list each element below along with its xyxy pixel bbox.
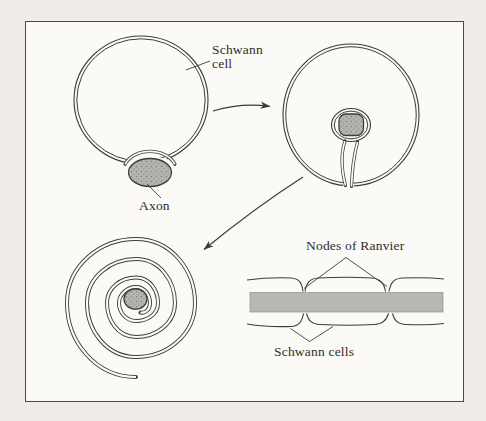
- stage4-myelinated-axon-longitudinal: [247, 258, 444, 342]
- schwann-segment-top-left: [247, 278, 303, 292]
- schwann-cell-label: Schwann cell: [212, 43, 276, 71]
- nodes-pointer-left: [304, 258, 346, 289]
- stage3-myelin-spiral: [67, 239, 195, 377]
- schwann-cells-label: Schwann cells: [274, 345, 354, 359]
- stage1-schwann-cell-with-axon: [74, 36, 208, 187]
- arrow-stage2-to-stage3: [204, 177, 303, 250]
- schwann-cell-outer-membrane: [74, 36, 208, 164]
- schwann-segment-bottom-middle: [307, 314, 389, 326]
- schwann-segment-bottom-left: [247, 314, 304, 327]
- axon-label: Axon: [139, 199, 170, 213]
- schwann-cell-inner-membrane: [77, 39, 205, 161]
- arrow-stage1-to-stage2: [213, 105, 270, 111]
- schwann-cells-pointer-left: [291, 329, 310, 342]
- axon-cross-section: [129, 159, 172, 187]
- axon-cross-section: [339, 114, 364, 136]
- nodes-of-ranvier-label: Nodes of Ranvier: [306, 239, 404, 253]
- schwann-cell-label-pointer: [186, 61, 210, 70]
- axon-band: [250, 293, 443, 313]
- stage2-axon-engulfed: [283, 44, 419, 192]
- schwann-segment-bottom-right: [393, 314, 445, 325]
- nodes-pointer-right: [346, 258, 387, 287]
- schwann-cells-pointer-right: [310, 327, 334, 342]
- axon-cross-section: [124, 289, 147, 309]
- schwann-segment-top-right: [389, 278, 444, 292]
